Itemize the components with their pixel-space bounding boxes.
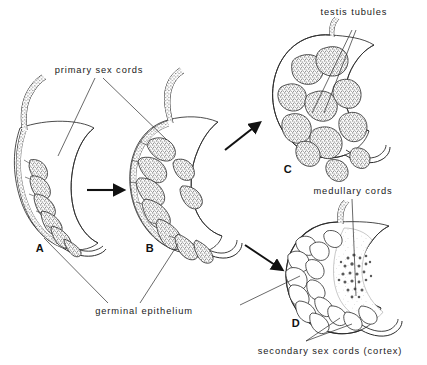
panel-letter-b: B bbox=[146, 242, 154, 254]
gonad-differentiation-figure: A bbox=[0, 0, 427, 365]
label-testis-tubules: testis tubules bbox=[321, 7, 388, 17]
figure-root: A bbox=[0, 0, 427, 365]
panel-letter-a: A bbox=[36, 242, 44, 254]
label-germinal-epithelium: germinal epithelium bbox=[95, 306, 193, 316]
panel-letter-d: D bbox=[292, 317, 300, 329]
panel-letter-c: C bbox=[284, 163, 292, 175]
label-primary-sex-cords: primary sex cords bbox=[55, 65, 144, 75]
label-medullary-cords: medullary cords bbox=[313, 186, 392, 196]
label-secondary-sex-cords: secondary sex cords (cortex) bbox=[258, 346, 403, 356]
